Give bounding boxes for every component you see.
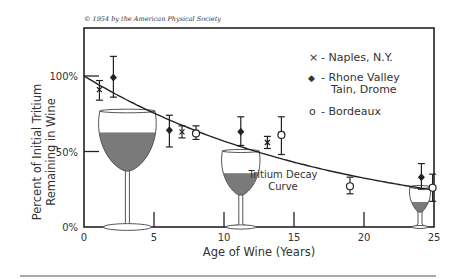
legend-label-rhone-line2: Tain, Drome xyxy=(330,83,397,96)
legend-label-naples: - Naples, N.Y. xyxy=(321,51,393,64)
data-point-circle xyxy=(278,117,285,155)
y-tick-label: 100% xyxy=(49,71,78,82)
legend-circle-icon: o xyxy=(309,105,316,118)
data-point-diamond xyxy=(237,117,244,146)
y-axis-title-line2: Remaining in Wine xyxy=(44,98,58,206)
x-tick-label: 20 xyxy=(358,232,371,243)
legend: × - Naples, N.Y. ◆ - Rhone Valley Tain, … xyxy=(308,51,400,118)
curve-label-line1: Tritium Decay xyxy=(248,169,318,180)
data-point-circle xyxy=(347,177,354,194)
wine-glass-large xyxy=(93,109,161,230)
x-tick-label: 10 xyxy=(218,232,231,243)
wine-glass-small xyxy=(405,186,435,229)
copyright-notice: © 1954 by the American Physical Society xyxy=(84,15,221,23)
x-axis-title: Age of Wine (Years) xyxy=(203,245,315,259)
x-tick-label: 5 xyxy=(151,232,157,243)
y-tick-label: 0% xyxy=(62,222,78,233)
data-point-circle xyxy=(193,126,200,140)
legend-x-icon: × xyxy=(309,51,318,64)
data-point-x xyxy=(264,136,271,148)
legend-diamond-icon: ◆ xyxy=(308,73,315,83)
curve-label-line2: Curve xyxy=(268,181,298,192)
tritium-decay-chart: © 1954 by the American Physical Society … xyxy=(0,0,459,279)
x-tick-label: 25 xyxy=(428,232,441,243)
y-axis-title-line1: Percent of Initial Tritium xyxy=(30,84,44,221)
data-point-x xyxy=(179,126,186,138)
data-point-diamond xyxy=(166,115,173,147)
x-tick-label: 0 xyxy=(81,232,87,243)
legend-label-bordeaux: - Bordeaux xyxy=(321,105,382,118)
y-tick-label: 50% xyxy=(56,147,78,158)
x-tick-label: 15 xyxy=(288,232,301,243)
